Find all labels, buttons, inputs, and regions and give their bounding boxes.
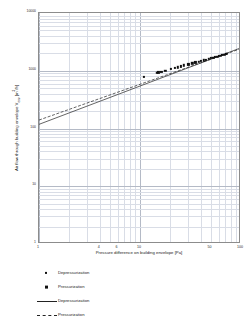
y-tick-label: 1: [20, 241, 36, 244]
data-point: [226, 53, 228, 55]
y-axis-title-unit-suffix: /h]: [14, 84, 19, 89]
data-point: [183, 64, 185, 66]
y-axis-title-wrap: Air flow through building envelope Venv …: [12, 12, 22, 243]
data-point: [177, 66, 179, 68]
data-point: [164, 69, 166, 71]
legend-item: Depressurization: [36, 266, 186, 280]
y-axis-title-main: Air flow through building envelope V: [14, 102, 19, 171]
y-axis-title-unit-prefix: [m: [14, 91, 19, 97]
chart-figure: 110100100010000 1461050100 Pressure diff…: [0, 0, 251, 322]
data-point: [216, 55, 218, 57]
legend-line-swatch: [36, 296, 58, 306]
data-point: [174, 67, 176, 69]
legend-item: Depressurization: [36, 294, 186, 308]
legend-item: Pressurization: [36, 280, 186, 294]
data-point: [191, 62, 193, 64]
legend-line-swatch: [36, 310, 58, 320]
legend-square-icon: [45, 272, 47, 274]
data-point: [212, 56, 214, 58]
x-tick-label: 100: [232, 246, 248, 250]
legend-item: Pressurization: [36, 308, 186, 322]
legend-marker-swatch: [36, 282, 58, 292]
x-axis-title: Pressure difference on building envelope…: [38, 251, 240, 255]
data-point: [143, 75, 145, 77]
plot-area: [38, 12, 240, 243]
data-point: [170, 68, 172, 70]
x-tick-label: 50: [202, 246, 218, 250]
y-tick-label: 10: [20, 183, 36, 186]
legend-item-label: Pressurization: [58, 285, 85, 289]
data-point: [197, 60, 199, 62]
data-point: [220, 54, 222, 56]
legend-square-icon: [45, 286, 48, 289]
y-tick-label: 10000: [20, 10, 36, 13]
chart-legend: DepressurizationPressurizationDepressuri…: [36, 266, 186, 322]
x-tick-label: 1: [30, 246, 46, 250]
data-point: [203, 59, 205, 61]
legend-item-label: Depressurization: [58, 299, 89, 303]
data-point: [208, 58, 210, 60]
y-tick-label: 1000: [20, 68, 36, 71]
data-point: [160, 71, 162, 73]
fitted-lines-layer: [39, 13, 240, 243]
data-point: [194, 61, 196, 63]
data-point: [155, 71, 157, 73]
y-axis-title-subscript: env: [17, 97, 21, 102]
legend-item-label: Pressurization: [58, 313, 85, 317]
legend-line-icon: [37, 301, 57, 302]
data-point: [187, 63, 189, 65]
y-axis-title: Air flow through building envelope Venv …: [13, 84, 20, 170]
y-tick-label: 100: [20, 126, 36, 129]
legend-item-label: Depressurization: [58, 271, 89, 275]
legend-line-icon: [37, 315, 57, 316]
legend-marker-swatch: [36, 268, 58, 278]
